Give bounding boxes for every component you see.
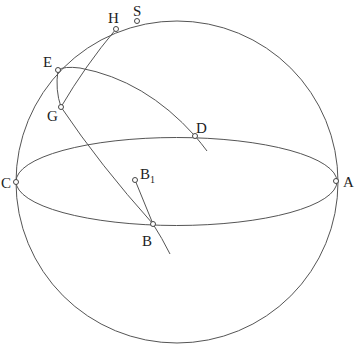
equator-ellipse (16, 138, 337, 226)
arc-e-d (58, 67, 207, 151)
label-b1: B1 (140, 166, 155, 185)
point-e (56, 68, 61, 73)
label-e: E (43, 54, 52, 70)
point-b1 (133, 178, 138, 183)
label-g: G (47, 108, 58, 124)
point-b (151, 222, 156, 227)
label-b: B (142, 233, 152, 249)
label-d: D (196, 120, 207, 136)
label-b1-main: B (140, 166, 150, 182)
point-g (59, 105, 64, 110)
point-c (14, 180, 19, 185)
line-h-g (61, 29, 116, 107)
sphere-diagram: A B B1 C D E G H S (0, 0, 359, 360)
label-b1-sub: 1 (150, 174, 155, 185)
line-b1-b (135, 180, 153, 224)
label-s: S (133, 3, 141, 19)
label-c: C (1, 175, 11, 191)
sphere-outline (16, 21, 338, 343)
point-s (135, 19, 140, 24)
label-h: H (108, 10, 119, 26)
point-h (114, 27, 119, 32)
point-a (334, 179, 339, 184)
label-a: A (343, 174, 354, 190)
